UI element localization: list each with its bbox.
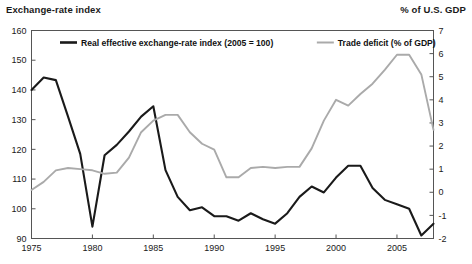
svg-text:110: 110: [12, 174, 26, 184]
svg-text:120: 120: [11, 145, 26, 155]
svg-text:100: 100: [11, 204, 26, 214]
chart-legend: Real effective exchange-rate index (2005…: [60, 38, 436, 48]
plot-frame: [32, 31, 434, 239]
svg-text:5: 5: [439, 72, 444, 82]
y-axis-right: -2-101234567: [430, 26, 447, 244]
series-lines: [32, 55, 434, 236]
svg-text:140: 140: [11, 85, 26, 95]
svg-text:Trade deficit (% of GDP): Trade deficit (% of GDP): [338, 38, 436, 48]
svg-text:150: 150: [11, 55, 26, 65]
svg-text:2000: 2000: [326, 243, 346, 253]
chart-container: Exchange-rate index % of U.S. GDP 901001…: [0, 0, 472, 264]
line-chart: 90100110120130140150160 -2-101234567 197…: [0, 0, 472, 264]
svg-text:1995: 1995: [265, 243, 285, 253]
svg-text:6: 6: [439, 49, 444, 59]
svg-text:1990: 1990: [204, 243, 224, 253]
svg-text:0: 0: [439, 187, 444, 197]
svg-text:-1: -1: [439, 211, 447, 221]
svg-text:1975: 1975: [21, 243, 41, 253]
svg-text:1985: 1985: [143, 243, 163, 253]
svg-text:1: 1: [439, 164, 444, 174]
svg-text:160: 160: [11, 26, 26, 36]
svg-text:4: 4: [439, 95, 444, 105]
svg-text:-2: -2: [439, 234, 447, 244]
svg-text:130: 130: [11, 115, 26, 125]
svg-text:3: 3: [439, 118, 444, 128]
svg-text:2: 2: [439, 141, 444, 151]
svg-text:Real effective exchange-rate i: Real effective exchange-rate index (2005…: [81, 38, 273, 48]
svg-text:2005: 2005: [387, 243, 407, 253]
svg-text:1980: 1980: [82, 243, 102, 253]
x-axis: 1975198019851990199520002005: [21, 235, 406, 253]
svg-text:7: 7: [439, 26, 444, 36]
